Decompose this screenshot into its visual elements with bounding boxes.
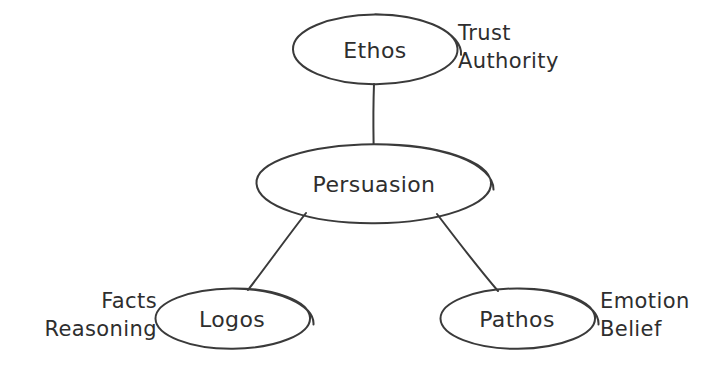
side-label-line: Facts <box>44 287 157 315</box>
diagram-canvas: Ethos Persuasion Logos Pathos Trust Auth… <box>0 0 713 372</box>
side-label-ethos-attributes: Trust Authority <box>458 19 559 75</box>
side-label-pathos-attributes: Emotion Belief <box>600 287 690 343</box>
side-label-line: Belief <box>600 315 690 343</box>
node-label-pathos: Pathos <box>479 307 555 332</box>
side-label-line: Authority <box>458 47 559 75</box>
node-label-ethos: Ethos <box>343 38 406 63</box>
side-label-line: Emotion <box>600 287 690 315</box>
node-label-logos: Logos <box>199 307 265 332</box>
connector-persuasion-pathos <box>437 214 498 291</box>
connector-ethos-persuasion <box>373 84 374 144</box>
node-label-persuasion: Persuasion <box>313 172 436 197</box>
connector-persuasion-logos <box>248 213 306 290</box>
side-label-logos-attributes: Facts Reasoning <box>44 287 157 343</box>
side-label-line: Trust <box>458 19 559 47</box>
side-label-line: Reasoning <box>44 315 157 343</box>
